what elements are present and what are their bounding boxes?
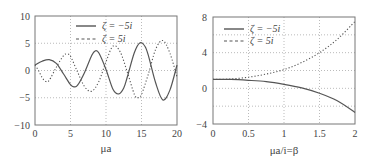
left-legend: ζ = −5i ζ = 5i <box>76 20 133 45</box>
right-legend: ζ = −5i ζ = 5i <box>224 23 281 47</box>
right-ytick: 0 <box>202 83 207 94</box>
right-ytick: 8 <box>202 12 207 23</box>
left-ytick: 5 <box>25 38 30 49</box>
left-xlabel: μa <box>101 142 112 154</box>
left-ytick: −5 <box>19 92 30 103</box>
left-xticks: 0 5 10 15 20 <box>33 128 183 139</box>
left-yticks: 10 5 0 −5 −10 <box>14 11 30 131</box>
left-ytick: 10 <box>20 11 30 22</box>
right-xlabel: μa/i=β <box>270 144 299 156</box>
right-xtick: 1.5 <box>313 128 326 139</box>
legend-label-dashed: ζ = 5i <box>102 33 126 45</box>
left-xtick: 15 <box>137 128 147 139</box>
right-xtick: 0 <box>211 128 216 139</box>
left-xtick: 0 <box>33 128 38 139</box>
left-chart: 10 5 0 −5 −10 0 5 10 15 20 μa ζ = −5i ζ … <box>14 11 182 155</box>
right-chart: 8 4 0 −4 0 0.5 1 1.5 2 μa/i=β ζ = −5i ζ … <box>196 12 357 157</box>
right-ytick: 4 <box>202 47 207 58</box>
legend-label-solid: ζ = −5i <box>250 23 281 35</box>
figure: 10 5 0 −5 −10 0 5 10 15 20 μa ζ = −5i ζ … <box>0 0 372 162</box>
right-ytick: −4 <box>196 119 207 130</box>
legend-label-solid: ζ = −5i <box>102 20 133 32</box>
left-ytick: −10 <box>14 120 30 131</box>
left-xtick: 20 <box>172 128 182 139</box>
right-yticks: 8 4 0 −4 <box>196 12 207 130</box>
left-ytick: 0 <box>25 65 30 76</box>
right-xtick: 0.5 <box>242 128 255 139</box>
legend-label-dashed: ζ = 5i <box>250 35 274 47</box>
right-xtick: 1 <box>282 128 287 139</box>
right-xtick: 2 <box>353 128 358 139</box>
left-xtick: 10 <box>101 128 111 139</box>
left-xtick: 5 <box>68 128 73 139</box>
right-gridlines <box>213 17 355 124</box>
right-xticks: 0 0.5 1 1.5 2 <box>211 128 358 139</box>
